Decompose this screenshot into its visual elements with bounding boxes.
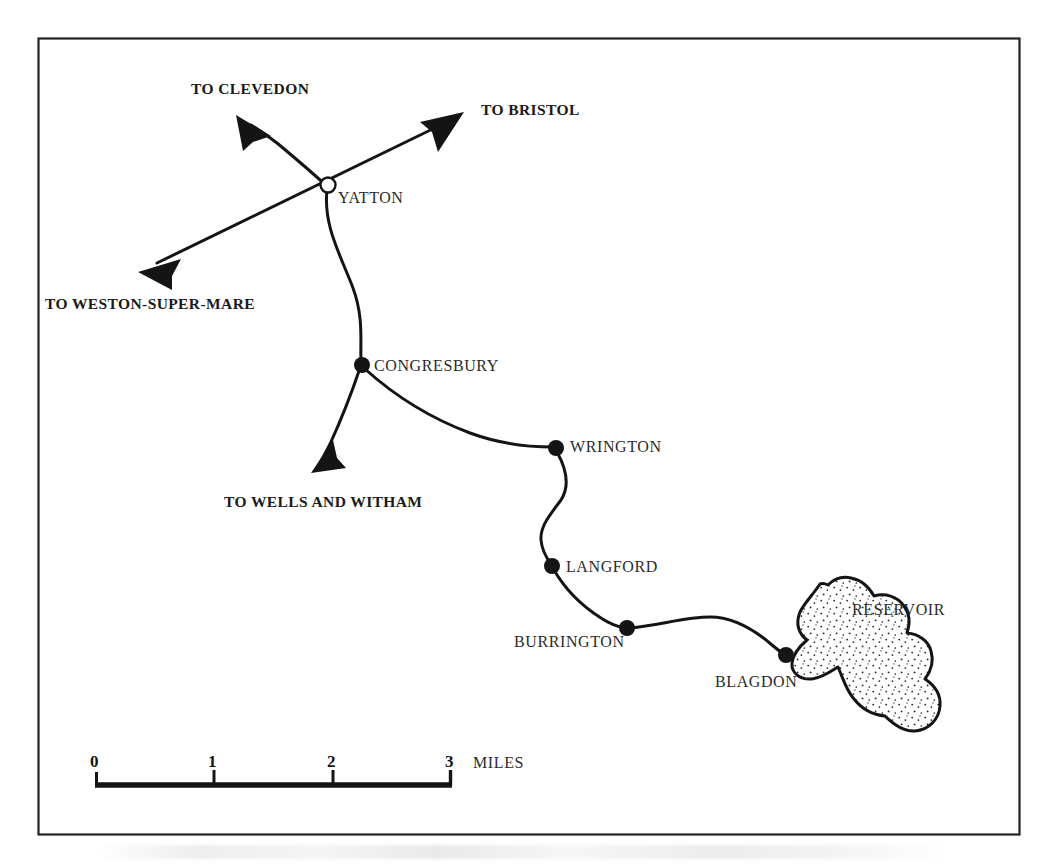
road-wrington-langford [541,452,566,564]
road-weston-bristol [157,121,449,263]
marker-langford[interactable] [544,558,560,574]
label-wrington: WRINGTON [570,439,662,455]
scale-label-2: 2 [327,752,336,772]
road-langford-burrington [554,570,625,628]
scale-label-0: 0 [90,752,99,772]
label-reservoir: RESERVOIR [852,602,945,618]
road-congresbury-wells [321,368,360,461]
scale-bar [95,770,452,785]
label-to-wells-and-witham: TO WELLS AND WITHAM [224,494,422,510]
map-canvas: TO CLEVEDON TO BRISTOL TO WESTON-SUPER-M… [0,0,1057,868]
scale-unit-label: MILES [473,754,524,772]
road-congresbury-wrington [365,369,553,447]
scale-label-3: 3 [445,752,454,772]
marker-congresbury[interactable] [354,357,370,373]
label-to-weston-super-mare: TO WESTON-SUPER-MARE [45,296,255,312]
road-burrington-blagdon [630,617,784,654]
scale-label-1: 1 [208,752,217,772]
label-burrington: BURRINGTON [514,634,625,650]
marker-wrington[interactable] [548,440,564,456]
arrowhead-weston [138,259,181,290]
marker-yatton[interactable] [321,178,336,193]
label-yatton: YATTON [338,190,404,206]
label-to-bristol: TO BRISTOL [481,102,580,118]
label-blagdon: BLAGDON [715,674,797,690]
road-yatton-congresbury [326,190,361,362]
map-graphics [0,0,1057,868]
arrowhead-clevedon [236,115,271,151]
map-border [39,39,1020,835]
label-congresbury: CONGRESBURY [374,358,499,374]
label-to-clevedon: TO CLEVEDON [191,81,309,97]
marker-blagdon[interactable] [778,647,794,663]
label-langford: LANGFORD [566,559,658,575]
